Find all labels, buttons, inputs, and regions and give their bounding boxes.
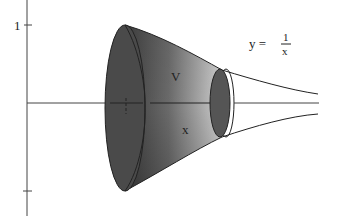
horn-opening-face	[105, 25, 145, 191]
volume-label: V	[171, 69, 181, 84]
equation-numerator: 1	[283, 31, 289, 43]
equation-denominator: x	[282, 45, 288, 57]
horn-tail	[222, 70, 319, 137]
equation-label: y = 1 x	[249, 31, 291, 57]
gabriels-horn-diagram: 1 V x y = 1 x	[0, 0, 337, 220]
cross-section-disk	[210, 69, 234, 137]
x-var-label: x	[182, 122, 189, 137]
y-axis	[23, 0, 32, 216]
equation-lhs: y =	[249, 36, 266, 51]
horn-solid	[105, 25, 222, 191]
y-tick-label: 1	[14, 18, 21, 33]
